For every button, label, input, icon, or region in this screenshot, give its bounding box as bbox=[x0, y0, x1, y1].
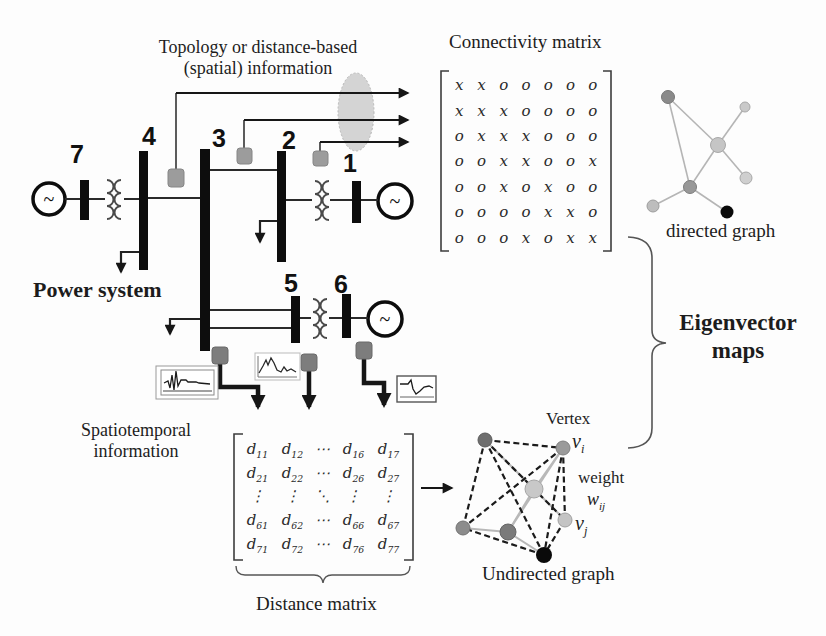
power-system-diagram bbox=[33, 149, 412, 351]
graph-node bbox=[711, 138, 726, 153]
graph-node bbox=[740, 102, 750, 112]
matrix-cell: d76 bbox=[343, 537, 364, 552]
matrix-cell: o bbox=[588, 104, 597, 119]
vertex-label: Vertex bbox=[546, 409, 590, 429]
bus-2 bbox=[277, 151, 286, 262]
bus-number-3: 3 bbox=[212, 124, 226, 153]
vertex-j-label: vj bbox=[575, 512, 587, 535]
matrix-cell: x bbox=[544, 180, 552, 195]
matrix-cell: o bbox=[588, 205, 597, 220]
matrix-cell: x bbox=[499, 154, 507, 169]
data-arrow-bus6 bbox=[364, 359, 384, 405]
matrix-cell: x bbox=[522, 154, 530, 169]
matrix-cell: d26 bbox=[343, 466, 364, 481]
matrix-cell: d71 bbox=[247, 537, 268, 552]
matrix-cell: o bbox=[544, 129, 553, 144]
matrix-cell: x bbox=[522, 129, 530, 144]
bus-3 bbox=[200, 149, 210, 351]
weight-ij-label: wij bbox=[587, 489, 605, 510]
matrix-cell: x bbox=[499, 129, 507, 144]
graph-node bbox=[740, 172, 752, 184]
matrix-cell: x bbox=[566, 205, 574, 220]
matrix-cell: o bbox=[566, 154, 575, 169]
graph-node-vertex-i bbox=[556, 441, 570, 455]
matrix-cell: o bbox=[566, 129, 575, 144]
matrix-cell: ⋯ bbox=[315, 442, 330, 457]
pmu-sensor-icon-bottom-bus5 bbox=[301, 354, 317, 371]
directed-graph-label: directed graph bbox=[666, 220, 775, 242]
matrix-cell: o bbox=[544, 104, 553, 119]
matrix-cell: o bbox=[521, 104, 530, 119]
matrix-cell: ⋯ bbox=[315, 466, 330, 481]
distance-matrix-underbrace bbox=[236, 566, 410, 583]
bus-number-2: 2 bbox=[282, 126, 296, 155]
transformer-2-1-icon bbox=[315, 181, 329, 220]
bus-number-6: 6 bbox=[334, 270, 348, 299]
matrix-cell: o bbox=[588, 129, 597, 144]
matrix-cell: d27 bbox=[378, 466, 399, 481]
matrix-cell: x bbox=[589, 231, 597, 246]
matrix-cell: x bbox=[477, 129, 485, 144]
distance-matrix: d11d12⋯d16d17d21d22⋯d26d27⋮⋮⋱⋮⋮d61d62⋯d6… bbox=[240, 438, 406, 556]
matrix-cell: ⋯ bbox=[315, 537, 330, 552]
matrix-cell: o bbox=[477, 231, 486, 246]
matrix-cell: o bbox=[499, 231, 508, 246]
matrix-cell: o bbox=[477, 180, 486, 195]
matrix-cell: d17 bbox=[378, 442, 399, 457]
matrix-cell: o bbox=[521, 78, 530, 93]
data-arrow-bus3 bbox=[220, 364, 258, 407]
matrix-cell: o bbox=[544, 154, 553, 169]
matrix-cell: o bbox=[455, 129, 464, 144]
matrix-cell: o bbox=[455, 205, 464, 220]
matrix-cell: x bbox=[522, 231, 530, 246]
matrix-cell: x bbox=[589, 154, 597, 169]
waveform-chart-icon-1 bbox=[156, 366, 218, 399]
matrix-cell: ⋮ bbox=[285, 489, 300, 504]
matrix-cell: o bbox=[499, 78, 508, 93]
pmu-sensor-icon-bottom-bus3 bbox=[212, 347, 228, 364]
matrix-cell: d16 bbox=[343, 442, 364, 457]
distance-matrix-title: Distance matrix bbox=[256, 593, 377, 615]
matrix-cell: d67 bbox=[378, 513, 399, 528]
undirected-graph bbox=[456, 433, 572, 563]
spatiotemporal-info-label: Spatiotemporal information bbox=[56, 420, 216, 462]
topology-info-label: Topology or distance-based (spatial) inf… bbox=[140, 37, 376, 79]
graph-node bbox=[721, 206, 734, 219]
matrix-cell: o bbox=[477, 154, 486, 169]
matrix-cell: d72 bbox=[282, 537, 303, 552]
matrix-cell: o bbox=[521, 205, 530, 220]
matrix-cell: d61 bbox=[247, 513, 268, 528]
waveform-chart-icon-3 bbox=[397, 376, 436, 402]
matrix-cell: x bbox=[477, 104, 485, 119]
matrix-cell: ⋱ bbox=[315, 489, 330, 504]
matrix-cell: o bbox=[566, 104, 575, 119]
matrix-cell: x bbox=[544, 205, 552, 220]
matrix-cell: d62 bbox=[282, 513, 303, 528]
transformer-5-6-icon bbox=[313, 299, 327, 338]
graph-node bbox=[536, 547, 552, 563]
graph-node bbox=[684, 181, 697, 194]
waveform-thumbnails bbox=[156, 353, 436, 402]
waveform-chart-icon-2 bbox=[255, 353, 300, 380]
graph-node bbox=[647, 200, 659, 212]
matrix-cell: o bbox=[455, 154, 464, 169]
bus-number-1: 1 bbox=[343, 149, 357, 178]
eigenvector-brace bbox=[628, 237, 666, 448]
bus-number-4: 4 bbox=[142, 122, 156, 151]
bus-1 bbox=[352, 181, 361, 223]
power-system-label: Power system bbox=[33, 277, 162, 303]
matrix-cell: o bbox=[477, 205, 486, 220]
pmu-sensor-icon-bus3 bbox=[237, 148, 252, 164]
matrix-cell: o bbox=[588, 180, 597, 195]
generator-6-symbol: ~ bbox=[380, 308, 391, 330]
load-arrow-bus2 bbox=[260, 221, 277, 242]
graph-node-vertex-j bbox=[558, 513, 572, 527]
matrix-cell: o bbox=[521, 180, 530, 195]
bus-6 bbox=[342, 294, 351, 338]
bus-7 bbox=[80, 180, 89, 220]
matrix-cell: o bbox=[455, 231, 464, 246]
matrix-cell: o bbox=[566, 78, 575, 93]
bus-4 bbox=[139, 151, 148, 270]
load-arrow-bus3 bbox=[170, 319, 200, 334]
load-arrow-bus4 bbox=[121, 252, 139, 272]
